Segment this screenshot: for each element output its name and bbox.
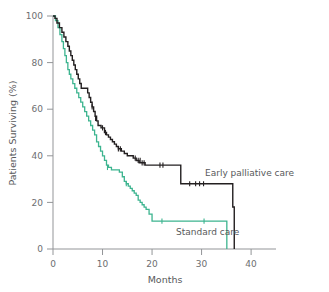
series-line-early-palliative-care xyxy=(53,16,234,249)
x-tick-label-20: 20 xyxy=(146,259,158,269)
y-tick-label-80: 80 xyxy=(32,58,44,68)
censor-marks-early-palliative-care xyxy=(92,104,203,186)
y-axis-ticks xyxy=(47,16,53,249)
x-tick-label-30: 30 xyxy=(196,259,208,269)
series-line-standard-care xyxy=(53,16,227,249)
x-tick-label-40: 40 xyxy=(245,259,257,269)
y-tick-label-60: 60 xyxy=(32,104,44,114)
y-axis-tick-labels: 020406080100 xyxy=(26,11,43,254)
series-label-early-palliative-care: Early palliative care xyxy=(205,168,295,178)
axis-spines xyxy=(53,16,276,249)
x-tick-label-0: 0 xyxy=(50,259,56,269)
kaplan-meier-plot: 020406080100 010203040 Months Patients S… xyxy=(0,0,329,292)
x-axis-tick-labels: 010203040 xyxy=(50,259,257,269)
x-axis-ticks xyxy=(53,249,251,255)
y-tick-label-20: 20 xyxy=(32,198,44,208)
survival-chart-figure: 020406080100 010203040 Months Patients S… xyxy=(0,0,329,292)
y-tick-label-100: 100 xyxy=(26,11,43,21)
y-axis-title: Patients Surviving (%) xyxy=(7,80,18,185)
series-label-standard-care: Standard care xyxy=(176,227,240,237)
x-axis-title: Months xyxy=(148,274,183,285)
x-tick-label-10: 10 xyxy=(97,259,109,269)
y-tick-label-40: 40 xyxy=(32,151,44,161)
y-tick-label-0: 0 xyxy=(37,244,43,254)
